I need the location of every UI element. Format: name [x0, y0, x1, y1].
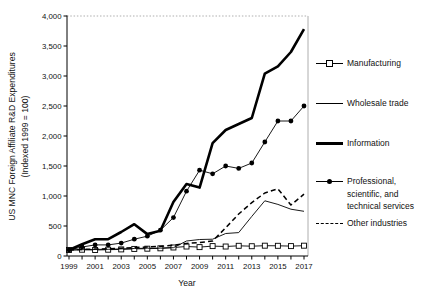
- legend-label-professional-services: Professional, scientific, and technical …: [347, 175, 427, 213]
- svg-text:1999: 1999: [60, 262, 77, 271]
- svg-text:1,500: 1,500: [42, 162, 62, 171]
- legend-item-other-industries: Other industries: [316, 217, 407, 230]
- legend-item-information: Information: [316, 137, 390, 150]
- svg-text:1,000: 1,000: [42, 192, 62, 201]
- svg-text:2,500: 2,500: [42, 102, 62, 111]
- svg-text:2017: 2017: [295, 262, 312, 271]
- y-axis-label-line2: (Indexed 1999 = 100): [19, 12, 32, 262]
- legend-item-professional-services: Professional, scientific, and technical …: [316, 175, 427, 213]
- dashed-line-icon: [316, 219, 343, 228]
- svg-text:4,000: 4,000: [42, 12, 62, 21]
- y-axis-label: US MNC Foreign Affiliate R&D Expenditure…: [6, 12, 33, 262]
- svg-text:2011: 2011: [217, 262, 234, 271]
- svg-text:500: 500: [48, 222, 62, 231]
- svg-text:2009: 2009: [191, 262, 208, 271]
- svg-text:2001: 2001: [86, 262, 103, 271]
- legend-item-manufacturing: Manufacturing: [316, 57, 401, 70]
- svg-text:2005: 2005: [139, 262, 157, 271]
- svg-text:2015: 2015: [269, 262, 287, 271]
- thick-line-icon: [316, 139, 343, 148]
- svg-text:2007: 2007: [165, 262, 182, 271]
- svg-text:3,000: 3,000: [42, 72, 62, 81]
- svg-text:0: 0: [57, 252, 62, 261]
- legend-label-information: Information: [347, 137, 390, 150]
- open-square-line-icon: [316, 59, 343, 68]
- legend-label-manufacturing: Manufacturing: [347, 57, 401, 70]
- svg-text:2,000: 2,000: [42, 132, 62, 141]
- svg-text:2003: 2003: [113, 262, 130, 271]
- legend-item-wholesale-trade: Wholesale trade: [316, 97, 408, 110]
- chart-legend: Manufacturing Wholesale trade Informatio…: [316, 0, 428, 301]
- svg-text:2013: 2013: [243, 262, 260, 271]
- filled-circle-line-icon: [316, 177, 343, 186]
- thin-line-icon: [316, 99, 343, 108]
- y-axis-label-line1: US MNC Foreign Affiliate R&D Expenditure…: [6, 12, 19, 262]
- svg-text:3,500: 3,500: [42, 42, 62, 51]
- rd-expenditures-line-chart: 05001,0001,5002,0002,5003,0003,5004,0001…: [0, 0, 429, 301]
- legend-label-wholesale-trade: Wholesale trade: [347, 97, 408, 110]
- x-axis-label: Year: [147, 278, 227, 288]
- legend-label-other-industries: Other industries: [347, 217, 407, 230]
